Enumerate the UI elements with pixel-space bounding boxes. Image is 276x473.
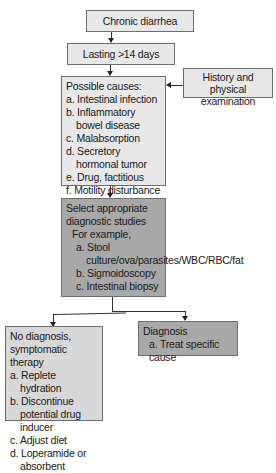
cause-item: b. Inflammatory bowel disease [66,106,161,132]
study-item: c. Intestinal biopsy [66,280,161,293]
studies-title: Select appropriate diagnostic studies [66,202,161,228]
node-duration: Lasting >14 days [67,43,175,65]
no-diagnosis-title: No diagnosis, symptomatic therapy [10,330,98,369]
connector-line [112,297,113,311]
connector-line [112,311,186,312]
studies-subtitle: For example, [66,228,161,241]
arrow-left-icon [166,82,171,88]
connector-line [170,85,183,86]
connector-line [54,312,126,315]
cause-item: f. Motility disturbance [66,184,161,197]
diagnosis-item: a. Treat specific cause [143,338,233,364]
node-label: History and physical examination [201,71,255,107]
therapy-item: a. Replete hydration [10,369,98,395]
node-possible-causes: Possible causes: a. Intestinal infection… [61,76,166,186]
therapy-item: b. Discontinue potential drug inducer [10,395,98,434]
cause-item: a. Intestinal infection [66,93,161,106]
node-diagnostic-studies: Select appropriate diagnostic studies Fo… [61,198,166,297]
node-diagnosis: Diagnosis a. Treat specific cause [138,321,238,356]
therapy-item: c. Adjust diet [10,434,98,447]
node-no-diagnosis: No diagnosis, symptomatic therapy a. Rep… [5,326,103,421]
study-item: a. Stool culture/ova/parasites/WBC/RBC/f… [66,241,161,267]
cause-item: c. Malabsorption [66,132,161,145]
study-item: b. Sigmoidoscopy [66,267,161,280]
node-history-physical: History and physical examination [183,68,273,98]
cause-item: d. Secretory hormonal tumor [66,145,161,171]
therapy-item: d. Loperamide or absorbent [10,447,98,473]
node-label: Lasting >14 days [83,48,159,60]
causes-title: Possible causes: [66,80,161,93]
node-chronic-diarrhea: Chronic diarrhea [86,10,194,32]
node-label: Chronic diarrhea [103,15,177,27]
cause-item: e. Drug, factitious [66,171,161,184]
diagnosis-title: Diagnosis [143,325,233,338]
